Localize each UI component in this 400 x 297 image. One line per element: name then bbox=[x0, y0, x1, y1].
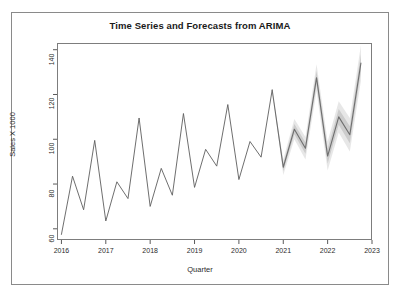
chart-canvas bbox=[57, 43, 372, 240]
y-tick-label: 80 bbox=[48, 183, 55, 205]
x-tick-label: 2017 bbox=[92, 247, 120, 254]
x-tick-label: 2020 bbox=[225, 247, 253, 254]
observed-series bbox=[61, 90, 272, 234]
x-tick-label: 2016 bbox=[47, 247, 75, 254]
y-tick-label: 120 bbox=[48, 93, 55, 115]
y-tick-label: 60 bbox=[48, 227, 55, 249]
y-tick-label: 100 bbox=[48, 138, 55, 160]
chart-title: Time Series and Forecasts from ARIMA bbox=[0, 20, 400, 31]
chart-screenshot: Time Series and Forecasts from ARIMA 608… bbox=[0, 0, 400, 297]
plot-area bbox=[57, 43, 372, 240]
x-axis-label: Quarter bbox=[0, 265, 400, 274]
y-axis-label: Sales X 1000 bbox=[8, 95, 17, 175]
x-tick-label: 2021 bbox=[269, 247, 297, 254]
x-tick-label: 2018 bbox=[136, 247, 164, 254]
x-tick-label: 2019 bbox=[181, 247, 209, 254]
y-tick-label: 140 bbox=[48, 48, 55, 70]
x-tick-label: 2022 bbox=[314, 247, 342, 254]
x-tick-label: 2023 bbox=[358, 247, 386, 254]
